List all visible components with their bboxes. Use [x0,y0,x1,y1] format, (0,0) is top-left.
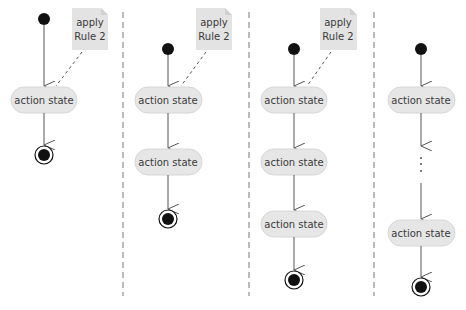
note-apply-rule-2: apply Rule 2 [320,8,357,50]
action-state-label: action state [264,157,323,168]
action-state-label: action state [264,95,323,106]
action-state-label: action state [391,228,450,239]
action-state-label: action state [391,95,450,106]
initial-state-icon [288,43,300,55]
note-text-line2: Rule 2 [322,31,353,42]
final-state-icon [35,146,53,164]
panel-step1: apply Rule 2 action state [11,8,108,164]
panel-step4: action state action state [388,43,455,296]
action-state: action state [261,149,327,175]
final-state-icon [285,271,303,289]
final-state-icon [412,278,430,296]
initial-state-icon [38,13,50,25]
action-state: action state [388,87,455,113]
initial-state-icon [162,43,174,55]
action-state-label: action state [138,95,197,106]
note-text-line1: apply [76,17,104,28]
note-text-line2: Rule 2 [198,31,229,42]
ellipsis-icon [420,157,422,172]
action-state: action state [261,87,327,113]
note-anchor-line [56,52,82,86]
note-text-line2: Rule 2 [74,31,105,42]
final-state-icon [159,210,177,228]
note-apply-rule-2: apply Rule 2 [196,8,232,50]
note-apply-rule-2: apply Rule 2 [72,8,108,50]
note-anchor-line [181,52,206,86]
panel-step3: apply Rule 2 action state action state a… [261,8,357,289]
action-state: action state [261,211,327,237]
note-anchor-line [307,52,331,86]
action-state: action state [135,87,202,113]
action-state-label: action state [14,95,73,106]
action-state-label: action state [264,219,323,230]
note-text-line1: apply [200,17,228,28]
initial-state-icon [415,43,427,55]
action-state: action state [388,220,455,246]
action-state: action state [11,87,77,113]
action-state: action state [135,149,202,175]
note-text-line1: apply [324,17,352,28]
panel-step2: apply Rule 2 action state action state [135,8,232,228]
activity-diagram: apply Rule 2 action state apply Rule 2 a… [0,0,466,310]
action-state-label: action state [138,157,197,168]
